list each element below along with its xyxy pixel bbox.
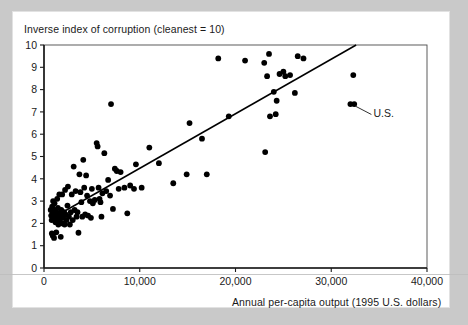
data-point	[65, 203, 71, 209]
data-point	[75, 209, 81, 215]
x-tick-label: 30,000	[315, 275, 347, 287]
data-point	[271, 89, 277, 95]
data-point	[58, 234, 64, 240]
data-point	[204, 171, 210, 177]
figure-root: Inverse index of corruption (cleanest = …	[0, 0, 468, 325]
data-point	[98, 199, 104, 205]
annotation-leader-line	[355, 106, 371, 114]
data-point	[95, 144, 101, 150]
data-point	[350, 72, 356, 78]
data-point	[53, 229, 59, 235]
data-point	[101, 150, 107, 156]
y-tick-label: 3	[31, 195, 37, 207]
data-point	[133, 161, 139, 167]
data-point-group	[48, 51, 357, 241]
y-tick-label: 10	[25, 39, 37, 51]
data-point	[65, 184, 71, 190]
data-point	[103, 188, 109, 194]
data-point	[73, 188, 79, 194]
x-tick-label: 10,000	[124, 275, 156, 287]
data-point	[266, 51, 272, 57]
data-point	[107, 193, 113, 199]
data-point	[77, 189, 83, 195]
data-point	[264, 73, 270, 79]
data-point	[292, 90, 298, 96]
data-point	[184, 171, 190, 177]
data-point	[110, 206, 116, 212]
data-point	[274, 98, 280, 104]
data-point	[88, 215, 94, 221]
data-point	[199, 136, 205, 142]
data-point	[76, 230, 82, 236]
data-point	[273, 111, 279, 117]
data-point	[215, 55, 221, 61]
y-tick-label: 7	[31, 106, 37, 118]
trend-line	[52, 45, 356, 218]
annotation-label-us: U.S.	[373, 107, 393, 119]
data-point	[122, 185, 128, 191]
data-point	[81, 185, 87, 191]
y-tick-label: 8	[31, 83, 37, 95]
data-point	[226, 113, 232, 119]
data-point	[80, 157, 86, 163]
data-point	[295, 53, 301, 59]
data-point	[287, 72, 293, 78]
y-tick-label: 0	[31, 262, 37, 274]
y-tick-label: 2	[31, 217, 37, 229]
y-tick-label: 6	[31, 128, 37, 140]
data-point	[124, 210, 130, 216]
data-point	[84, 193, 90, 199]
data-point	[242, 58, 248, 64]
x-tick-label: 40,000	[411, 275, 443, 287]
data-point	[146, 145, 152, 151]
data-point	[92, 197, 98, 203]
data-point	[83, 173, 89, 179]
data-point	[89, 186, 95, 192]
data-point	[261, 60, 267, 66]
data-point	[78, 199, 84, 205]
data-point	[71, 164, 77, 170]
data-point	[301, 55, 307, 61]
data-point	[51, 235, 57, 241]
plot-frame	[44, 45, 427, 268]
data-point	[139, 185, 145, 191]
data-point	[105, 177, 111, 183]
data-point	[116, 186, 122, 192]
data-point	[108, 101, 114, 107]
data-point	[187, 120, 193, 126]
data-point	[282, 73, 288, 79]
data-point	[99, 214, 105, 220]
x-tick-label: 20,000	[219, 275, 251, 287]
data-point	[156, 160, 162, 166]
data-point	[77, 171, 83, 177]
data-point	[170, 180, 176, 186]
x-tick-label: 0	[41, 275, 47, 287]
data-point	[118, 169, 124, 175]
data-point	[262, 149, 268, 155]
data-point	[267, 113, 273, 119]
y-tick-label: 9	[31, 61, 37, 73]
data-point	[131, 186, 137, 192]
y-tick-label: 5	[31, 150, 37, 162]
y-tick-label: 1	[31, 239, 37, 251]
data-point	[96, 185, 102, 191]
scatter-plot: 012345678910010,00020,00030,00040,000U.S…	[0, 0, 468, 325]
y-tick-label: 4	[31, 173, 37, 185]
